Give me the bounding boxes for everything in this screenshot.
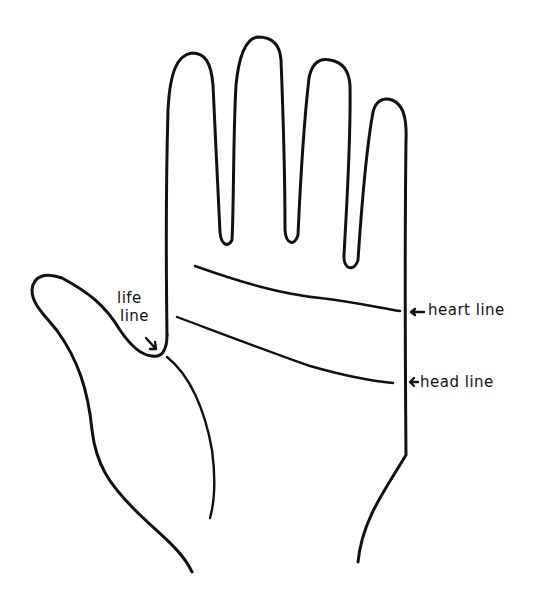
heart-line-arrow-icon xyxy=(411,309,424,315)
life-line-label-line2: line xyxy=(120,308,149,325)
head-line-label: head line xyxy=(420,374,494,391)
head-line-arrow-icon xyxy=(410,378,418,386)
heart-line xyxy=(195,266,400,311)
life-line-arrow-icon xyxy=(146,338,156,349)
hand-outline xyxy=(166,37,406,562)
life-line-label-line1: life xyxy=(117,290,142,307)
heart-line-label: heart line xyxy=(428,302,505,319)
head-line xyxy=(177,317,393,383)
life-line xyxy=(167,357,214,518)
